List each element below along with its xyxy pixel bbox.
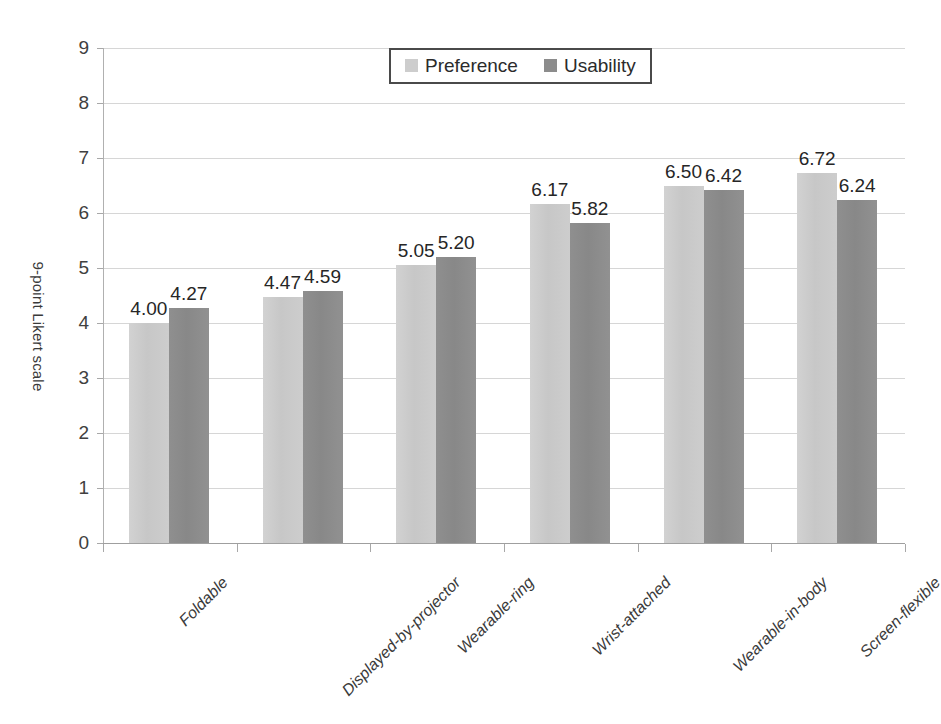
x-axis-category-label: Screen-flexible bbox=[857, 574, 941, 662]
x-axis-category-label: Wearable-in-body bbox=[729, 574, 831, 676]
bar-usability-5 bbox=[704, 190, 744, 543]
y-axis-tick-label: 5 bbox=[61, 258, 89, 277]
bar-value-label: 5.82 bbox=[562, 199, 618, 218]
bar-preference-4 bbox=[530, 204, 570, 543]
bar-usability-6 bbox=[837, 200, 877, 543]
gridline bbox=[103, 488, 905, 489]
y-axis-tick-label: 0 bbox=[61, 533, 89, 552]
bar-preference-2 bbox=[263, 297, 303, 543]
y-axis-tickmark bbox=[97, 268, 103, 269]
bar-value-label: 4.27 bbox=[161, 284, 217, 303]
gridline bbox=[103, 378, 905, 379]
x-axis-category-label: Wrist-attached bbox=[589, 574, 675, 660]
y-axis-tickmark bbox=[97, 433, 103, 434]
gridline bbox=[103, 213, 905, 214]
y-axis-tick-label: 2 bbox=[61, 423, 89, 442]
bar-value-label: 6.17 bbox=[522, 180, 578, 199]
bar-usability-4 bbox=[570, 223, 610, 543]
y-axis-title: 9-point Likert scale bbox=[30, 227, 47, 427]
legend-label: Preference bbox=[425, 56, 518, 75]
bar-preference-3 bbox=[396, 265, 436, 543]
x-axis-tickmark bbox=[103, 544, 104, 552]
gridline bbox=[103, 433, 905, 434]
y-axis-tickmark bbox=[97, 488, 103, 489]
legend-entry-preference: Preference bbox=[405, 56, 518, 75]
y-axis-tick-label: 6 bbox=[61, 203, 89, 222]
legend-swatch-usability-icon bbox=[544, 59, 557, 72]
bar-value-label: 6.24 bbox=[829, 176, 885, 195]
x-axis-tickmark bbox=[905, 544, 906, 552]
x-axis-tickmark bbox=[237, 544, 238, 552]
bar-chart: 9-point Likert scale 0123456789 4.004.27… bbox=[0, 0, 941, 724]
y-axis-tick-label: 9 bbox=[61, 38, 89, 57]
y-axis-line bbox=[103, 48, 104, 543]
x-axis-category-label: Wearable-ring bbox=[454, 574, 538, 658]
x-axis-tickmark bbox=[504, 544, 505, 552]
legend-swatch-preference-icon bbox=[405, 59, 418, 72]
y-axis-tickmark bbox=[97, 158, 103, 159]
chart-legend: PreferenceUsability bbox=[389, 48, 652, 84]
y-axis-tick-label: 8 bbox=[61, 93, 89, 112]
bar-value-label: 4.59 bbox=[295, 267, 351, 286]
legend-label: Usability bbox=[564, 56, 636, 75]
gridline bbox=[103, 323, 905, 324]
gridline bbox=[103, 158, 905, 159]
bar-usability-2 bbox=[303, 291, 343, 543]
y-axis-tickmark bbox=[97, 103, 103, 104]
bar-value-label: 6.72 bbox=[789, 149, 845, 168]
plot-area: 4.004.274.474.595.055.206.175.826.506.42… bbox=[103, 48, 905, 543]
bar-preference-5 bbox=[664, 186, 704, 544]
y-axis-tick-label: 1 bbox=[61, 478, 89, 497]
gridline bbox=[103, 268, 905, 269]
gridline bbox=[103, 103, 905, 104]
x-axis-tickmark bbox=[771, 544, 772, 552]
y-axis-tickmark bbox=[97, 48, 103, 49]
y-axis-tick-label: 4 bbox=[61, 313, 89, 332]
x-axis-category-label: Displayed-by-projector bbox=[338, 574, 464, 700]
y-axis-tickmark bbox=[97, 378, 103, 379]
bar-value-label: 6.42 bbox=[696, 166, 752, 185]
x-axis-tickmark bbox=[638, 544, 639, 552]
bar-usability-1 bbox=[169, 308, 209, 543]
y-axis-tick-label: 3 bbox=[61, 368, 89, 387]
y-axis-tickmark bbox=[97, 323, 103, 324]
bar-preference-1 bbox=[129, 323, 169, 543]
legend-entry-usability: Usability bbox=[544, 56, 636, 75]
bar-usability-3 bbox=[436, 257, 476, 543]
y-axis-tick-label: 7 bbox=[61, 148, 89, 167]
x-axis-tickmark bbox=[370, 544, 371, 552]
bar-preference-6 bbox=[797, 173, 837, 543]
bar-value-label: 5.20 bbox=[428, 233, 484, 252]
x-axis-category-label: Foldable bbox=[175, 574, 231, 630]
y-axis-tickmark bbox=[97, 213, 103, 214]
